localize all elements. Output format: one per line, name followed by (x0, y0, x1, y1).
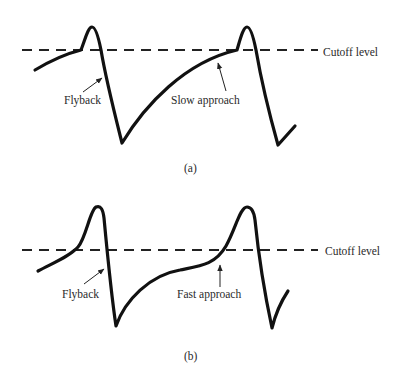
panel-a: Cutoff level Flyback Slow approach (a) (22, 27, 378, 175)
slow-approach-arrow (218, 63, 226, 91)
cutoff-level-label: Cutoff level (325, 245, 380, 257)
waveform-diagram: Cutoff level Flyback Slow approach (a) C… (0, 0, 403, 376)
caption-a: (a) (184, 162, 197, 175)
flyback-label: Flyback (64, 94, 101, 107)
flyback-arrow (83, 78, 102, 92)
caption-b: (b) (184, 350, 198, 363)
panel-b: Cutoff level Flyback Fast approach (b) (22, 207, 380, 363)
slow-approach-label: Slow approach (171, 94, 240, 107)
flyback-arrow (84, 269, 104, 284)
waveform-slow (35, 27, 295, 145)
fast-approach-label: Fast approach (177, 288, 241, 301)
flyback-label: Flyback (62, 288, 99, 301)
cutoff-level-label: Cutoff level (323, 46, 378, 58)
waveform-fast (38, 207, 288, 328)
